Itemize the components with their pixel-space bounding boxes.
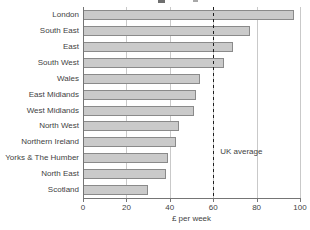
uk-average-label: UK average xyxy=(220,147,262,156)
bar-east xyxy=(83,42,233,52)
x-tick-label: 40 xyxy=(158,203,182,212)
bar-east-midlands xyxy=(83,90,196,100)
category-label: London xyxy=(0,10,79,20)
y-axis-line xyxy=(83,7,84,198)
bar-northern-ireland xyxy=(83,137,176,147)
x-tick xyxy=(83,199,84,202)
bar-south-east xyxy=(83,26,250,36)
bar-west-midlands xyxy=(83,106,194,116)
category-label: South East xyxy=(0,26,79,36)
category-label: West Midlands xyxy=(0,106,79,116)
category-label: Yorks & The Humber xyxy=(0,153,79,163)
bar-north-east xyxy=(83,169,166,179)
gridline-x-80 xyxy=(257,7,258,198)
cropped-title-fragment xyxy=(158,0,165,3)
x-tick-label: 60 xyxy=(201,203,225,212)
bar-yorks-the-humber xyxy=(83,153,168,163)
category-label: East Midlands xyxy=(0,90,79,100)
bar-north-west xyxy=(83,121,179,131)
bar-chart: UK average £ per week LondonSouth EastEa… xyxy=(0,0,310,230)
x-axis-title: £ per week xyxy=(83,214,300,223)
x-axis-line xyxy=(83,198,301,199)
bar-wales xyxy=(83,74,200,84)
x-tick-label: 80 xyxy=(245,203,269,212)
x-tick xyxy=(300,199,301,202)
category-label: Scotland xyxy=(0,185,79,195)
x-tick xyxy=(213,199,214,202)
bar-south-west xyxy=(83,58,224,68)
x-tick-label: 100 xyxy=(288,203,310,212)
category-label: East xyxy=(0,42,79,52)
x-tick xyxy=(126,199,127,202)
bar-london xyxy=(83,10,294,20)
bar-scotland xyxy=(83,185,148,195)
category-label: North West xyxy=(0,121,79,131)
x-tick-label: 20 xyxy=(114,203,138,212)
x-tick xyxy=(257,199,258,202)
category-label: South West xyxy=(0,58,79,68)
uk-average-reference-line xyxy=(213,7,214,198)
category-label: Northern Ireland xyxy=(0,137,79,147)
cropped-title-fragment xyxy=(193,0,198,2)
category-label: North East xyxy=(0,169,79,179)
category-label: Wales xyxy=(0,74,79,84)
x-tick-label: 0 xyxy=(71,203,95,212)
x-tick xyxy=(170,199,171,202)
gridline-x-100 xyxy=(300,7,301,198)
